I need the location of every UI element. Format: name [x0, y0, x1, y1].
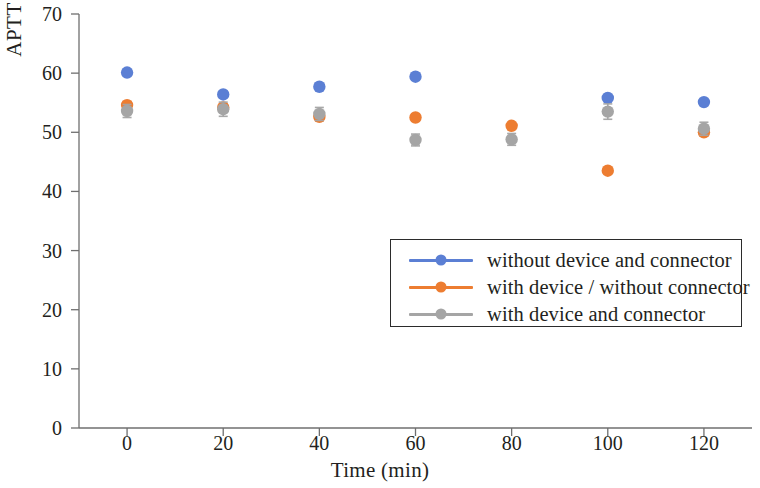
legend-marker-icon-1 — [405, 277, 477, 297]
data-point — [409, 111, 421, 123]
data-point — [602, 92, 614, 104]
data-point — [313, 81, 325, 93]
legend-item-1[interactable]: with device / without connector — [405, 274, 750, 300]
data-point — [313, 108, 325, 120]
data-point — [409, 134, 421, 146]
data-point — [602, 165, 614, 177]
data-point — [698, 123, 710, 135]
data-point — [505, 133, 517, 145]
data-point — [217, 88, 229, 100]
data-point — [121, 66, 133, 78]
legend-item-2[interactable]: with device and connector — [405, 301, 705, 327]
data-point — [602, 105, 614, 117]
legend-marker-icon-0 — [405, 250, 477, 270]
legend-label-2: with device and connector — [487, 303, 705, 326]
chart-container: APTT (s) Time (min) 010203040506070 0204… — [0, 0, 760, 488]
series-0 — [121, 66, 710, 108]
legend-label-0: without device and connector — [487, 249, 732, 272]
legend: without device and connector with device… — [390, 239, 742, 327]
data-point — [698, 96, 710, 108]
data-point — [505, 120, 517, 132]
legend-marker-icon-2 — [405, 304, 477, 324]
legend-label-1: with device / without connector — [487, 276, 750, 299]
data-point — [121, 105, 133, 117]
series-2 — [121, 102, 710, 146]
data-point — [409, 70, 421, 82]
data-point — [217, 103, 229, 115]
legend-item-0[interactable]: without device and connector — [405, 247, 732, 273]
